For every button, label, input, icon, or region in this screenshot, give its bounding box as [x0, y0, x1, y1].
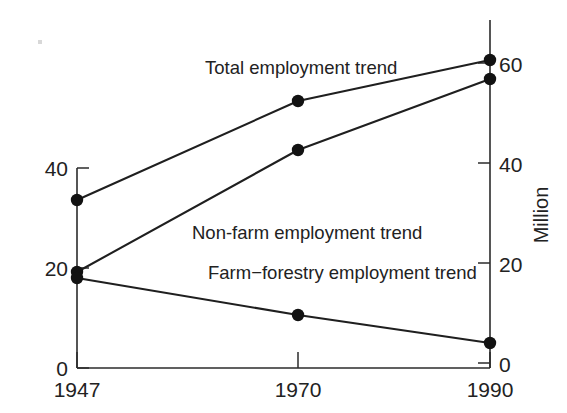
series-line-farm [77, 278, 490, 343]
x-tick-label-1970: 1970 [275, 378, 322, 401]
series-marker-nonfarm-1990 [484, 73, 496, 85]
series-marker-farm-1990 [484, 337, 496, 349]
left-tick-label-20: 20 [45, 257, 68, 280]
right-tick-label-40: 40 [499, 153, 522, 176]
x-tick-label-1947: 1947 [54, 378, 101, 401]
chart-container: 40 20 0 1947 1970 1990 60 40 20 0 Millio… [0, 0, 567, 413]
left-tick-label-0: 0 [56, 357, 68, 380]
right-axis-title: Million [530, 187, 552, 244]
right-tick-label-0: 0 [499, 353, 511, 376]
series-marker-nonfarm-1970 [292, 144, 304, 156]
series-line-total [77, 60, 490, 200]
series-label-farm: Farm−forestry employment trend [208, 262, 477, 283]
right-tick-label-20: 20 [499, 253, 522, 276]
left-tick-label-40: 40 [45, 157, 68, 180]
scan-speck [38, 40, 42, 44]
x-tick-label-1990: 1990 [467, 378, 514, 401]
series-marker-total-1970 [292, 95, 304, 107]
series-marker-farm-1970 [292, 309, 304, 321]
line-chart: 40 20 0 1947 1970 1990 60 40 20 0 Millio… [0, 0, 567, 413]
series-marker-farm-1947 [71, 272, 83, 284]
series-label-nonfarm: Non-farm employment trend [192, 222, 422, 243]
right-tick-label-60: 60 [499, 53, 522, 76]
series-marker-total-1947 [71, 194, 83, 206]
series-marker-total-1990 [484, 54, 496, 66]
series-label-total: Total employment trend [205, 57, 397, 78]
